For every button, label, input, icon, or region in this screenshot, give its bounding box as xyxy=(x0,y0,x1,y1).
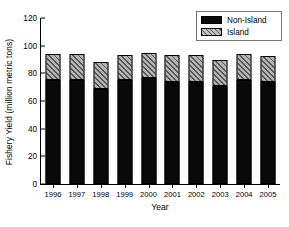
y-tick-label: 100 xyxy=(11,41,37,50)
y-tick-label: 60 xyxy=(11,97,37,106)
bar-stack xyxy=(189,55,204,184)
x-tick-label: 2003 xyxy=(212,190,229,199)
bar-segment-island xyxy=(189,55,204,81)
x-tick-label: 2001 xyxy=(164,190,181,199)
x-tick-mark xyxy=(53,184,54,188)
y-tick-mark xyxy=(41,18,45,19)
bar-stack xyxy=(117,55,132,184)
x-tick-label: 2000 xyxy=(140,190,157,199)
bar-segment-non-island xyxy=(213,86,228,184)
bar-segment-island xyxy=(213,60,228,87)
bar-segment-non-island xyxy=(189,82,204,184)
y-tick-mark xyxy=(41,184,45,185)
bar-segment-non-island xyxy=(141,78,156,184)
x-tick-label: 2002 xyxy=(188,190,205,199)
bar-stack xyxy=(93,62,108,184)
x-tick-label: 2004 xyxy=(236,190,253,199)
x-tick-mark xyxy=(268,184,269,188)
plot-area: 0204060801001201996199719981999200020012… xyxy=(40,18,280,185)
bar-segment-non-island xyxy=(165,82,180,184)
x-tick-label: 2005 xyxy=(260,190,277,199)
bar-segment-island xyxy=(117,55,132,81)
y-tick-mark xyxy=(41,45,45,46)
bar-segment-non-island xyxy=(117,80,132,184)
bar-stack xyxy=(45,54,60,184)
bar-segment-island xyxy=(69,54,84,80)
x-tick-mark xyxy=(172,184,173,188)
legend-swatch-non-island xyxy=(201,16,222,24)
legend-label-island: Island xyxy=(227,28,249,37)
x-tick-mark xyxy=(244,184,245,188)
y-tick-mark xyxy=(41,73,45,74)
y-tick-label: 80 xyxy=(11,69,37,78)
x-tick-label: 1999 xyxy=(116,190,133,199)
bar-segment-non-island xyxy=(93,89,108,184)
bar-stack xyxy=(69,54,84,184)
bar-stack xyxy=(213,60,228,185)
y-tick-label: 40 xyxy=(11,124,37,133)
x-tick-mark xyxy=(101,184,102,188)
legend-label-non-island: Non-Island xyxy=(227,16,267,25)
x-tick-label: 1997 xyxy=(68,190,85,199)
bar-segment-island xyxy=(141,53,156,79)
legend-swatch-island xyxy=(201,28,222,36)
bar-segment-non-island xyxy=(45,80,60,184)
y-tick-label: 0 xyxy=(11,180,37,189)
bar-segment-non-island xyxy=(237,80,252,184)
legend-item-island: Island xyxy=(201,27,277,37)
bar-stack xyxy=(165,55,180,184)
y-tick-mark xyxy=(41,128,45,129)
bar-stack xyxy=(141,53,156,184)
x-tick-mark xyxy=(149,184,150,188)
x-axis-title: Year xyxy=(40,202,280,212)
y-tick-mark xyxy=(41,156,45,157)
bar-stack xyxy=(261,56,276,184)
x-tick-mark xyxy=(196,184,197,188)
bar-stack xyxy=(237,54,252,184)
bar-segment-non-island xyxy=(261,82,276,184)
y-tick-label: 120 xyxy=(11,14,37,23)
fishery-yield-chart: Fishery Yield (million metric tons) 0204… xyxy=(0,0,289,227)
bar-segment-island xyxy=(45,54,60,80)
bar-segment-island xyxy=(93,62,108,88)
bar-segment-non-island xyxy=(69,80,84,184)
x-tick-label: 1996 xyxy=(44,190,61,199)
x-tick-mark xyxy=(77,184,78,188)
y-tick-mark xyxy=(41,101,45,102)
bar-segment-island xyxy=(237,54,252,80)
x-tick-label: 1998 xyxy=(92,190,109,199)
y-tick-label: 20 xyxy=(11,152,37,161)
legend-item-non-island: Non-Island xyxy=(201,15,277,25)
chart-legend: Non-Island Island xyxy=(196,11,282,41)
x-tick-mark xyxy=(125,184,126,188)
x-tick-mark xyxy=(220,184,221,188)
bar-segment-island xyxy=(261,56,276,82)
bar-segment-island xyxy=(165,55,180,81)
